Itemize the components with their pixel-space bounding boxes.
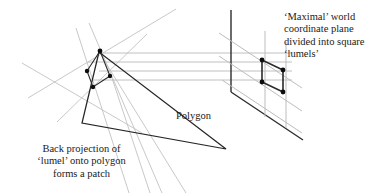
plane-bottom-edge	[231, 92, 303, 140]
plane-caption: ‘Maximal’ world coordinate plane divided…	[284, 11, 364, 61]
diagram-figure: ‘Maximal’ world coordinate plane divided…	[0, 0, 380, 193]
patch-caption-line-2: ‘lumel’ onto polygon	[14, 155, 149, 167]
patch-vertex-dot-4	[108, 74, 112, 78]
plane-caption-line-2: coordinate plane	[284, 23, 364, 35]
patch-vertex-dot-1	[98, 49, 103, 54]
lumel-vertex-dot-1	[260, 58, 265, 63]
plane-grid-diagonal-3	[222, 80, 302, 133]
patch-vertex-dot-2	[85, 69, 89, 73]
plane-caption-line-3: divided into square	[284, 36, 364, 48]
polygon-caption-line-1: Polygon	[176, 110, 211, 122]
patch-vertex-dot-3	[91, 85, 95, 89]
lumel-vertex-dots	[260, 58, 286, 95]
lumel-vertex-dot-4	[281, 68, 286, 73]
lumel-vertex-dot-3	[281, 90, 286, 95]
plane-caption-line-1: ‘Maximal’ world	[284, 11, 364, 23]
lumel-vertex-dot-2	[260, 80, 265, 85]
patch-caption-line-3: forms a patch	[14, 168, 149, 180]
polygon-shape	[82, 52, 226, 149]
plane-caption-line-4: ‘lumels’	[284, 48, 364, 60]
polygon-caption: Polygon	[176, 110, 211, 122]
patch-caption-line-1: Back projection of	[14, 143, 149, 155]
patch-caption: Back projection of ‘lumel’ onto polygon …	[14, 143, 149, 180]
